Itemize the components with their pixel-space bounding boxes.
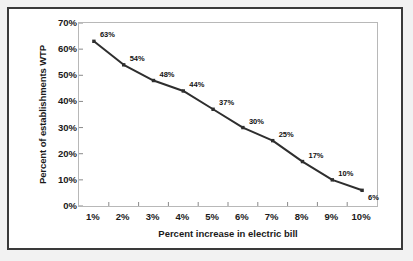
- data-point-label: 54%: [130, 54, 145, 63]
- x-axis-title: Percent increase in electric bill: [78, 228, 378, 239]
- y-axis-title: Percent of establishments WTP: [37, 35, 48, 195]
- y-axis-tick-labels: 0%10%20%30%40%50%60%70%: [47, 22, 77, 207]
- y-tick-label: 20%: [47, 149, 77, 159]
- data-point-label: 25%: [279, 130, 294, 139]
- y-tick-label: 70%: [47, 18, 77, 28]
- screenshot-root: Percent of establishments WTP 0%10%20%30…: [0, 0, 413, 261]
- line-series-svg: [79, 23, 377, 206]
- data-point-label: 37%: [219, 98, 234, 107]
- series-line: [94, 41, 362, 190]
- data-point-marker: [271, 139, 274, 142]
- y-tick-label: 0%: [47, 201, 77, 211]
- data-point-marker: [331, 178, 334, 181]
- data-point-label: 6%: [368, 193, 379, 202]
- x-axis-tick-labels: 1%2%3%4%5%6%7%8%9%10%: [78, 211, 378, 227]
- data-point-marker: [182, 89, 185, 92]
- chart-area: Percent of establishments WTP 0%10%20%30…: [9, 9, 401, 248]
- data-point-marker: [360, 189, 363, 192]
- y-tick-label: 50%: [47, 70, 77, 80]
- data-point-marker: [152, 79, 155, 82]
- y-tick-label: 40%: [47, 96, 77, 106]
- data-point-label: 30%: [249, 117, 264, 126]
- data-point-marker: [241, 126, 244, 129]
- data-point-label: 10%: [338, 169, 353, 178]
- data-point-label: 63%: [100, 30, 115, 39]
- y-tick-label: 30%: [47, 123, 77, 133]
- data-point-label: 48%: [160, 70, 175, 79]
- data-point-label: 44%: [189, 80, 204, 89]
- y-tick-label: 60%: [47, 44, 77, 54]
- data-point-marker: [92, 40, 95, 43]
- chart-figure-frame: Percent of establishments WTP 0%10%20%30…: [7, 7, 403, 250]
- data-point-marker: [122, 63, 125, 66]
- data-point-label: 17%: [309, 151, 324, 160]
- plot-area: 63%54%48%44%37%30%25%17%10%6%: [78, 22, 378, 207]
- data-point-marker: [211, 108, 214, 111]
- data-point-marker: [301, 160, 304, 163]
- x-tick-label: 10%: [341, 211, 381, 222]
- y-tick-label: 10%: [47, 175, 77, 185]
